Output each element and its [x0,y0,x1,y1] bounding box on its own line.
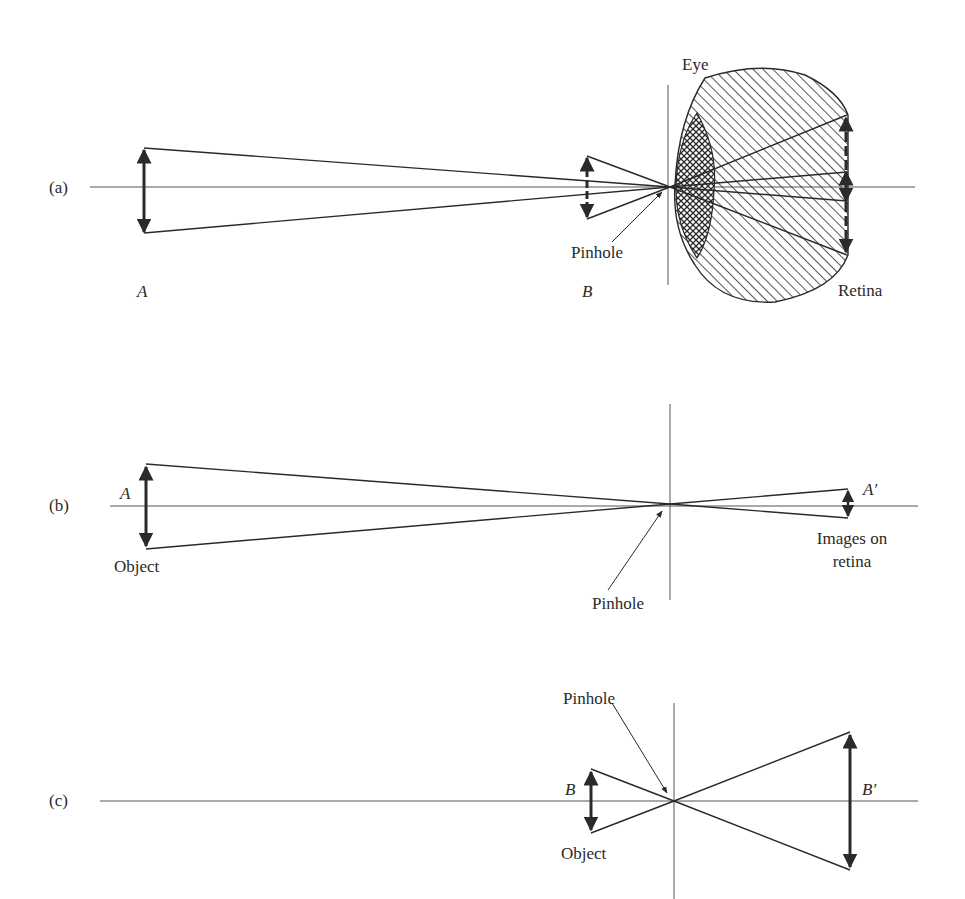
pinhole-pointer-b [608,511,662,590]
panel-c [100,703,918,899]
label-images-on-retina-1: Images on [807,530,897,547]
label-image-b-prime: B′ [862,781,876,798]
label-object: Object [561,845,606,862]
label-eye: Eye [682,56,708,73]
panel-a [90,68,915,302]
eye-ball [675,68,848,302]
label-object: Object [114,558,159,575]
label-object-a: A [120,485,130,502]
label-pinhole-b: Pinhole [592,595,644,612]
label-image-a-prime: A′ [863,481,877,498]
pinhole-optics-diagram [0,0,965,899]
label-pinhole-c: Pinhole [563,690,615,707]
label-object-b: B [565,781,575,798]
panel-a-tag: (a) [49,179,68,196]
label-retina: Retina [838,282,882,299]
panel-b [110,404,918,600]
panel-c-tag: (c) [49,792,68,809]
panel-b-tag: (b) [49,497,69,514]
pinhole-pointer-c [612,703,667,793]
label-images-on-retina-2: retina [807,553,897,570]
label-object-a: A [137,283,147,300]
label-pinhole-a: Pinhole [571,244,623,261]
label-object-b: B [582,283,592,300]
